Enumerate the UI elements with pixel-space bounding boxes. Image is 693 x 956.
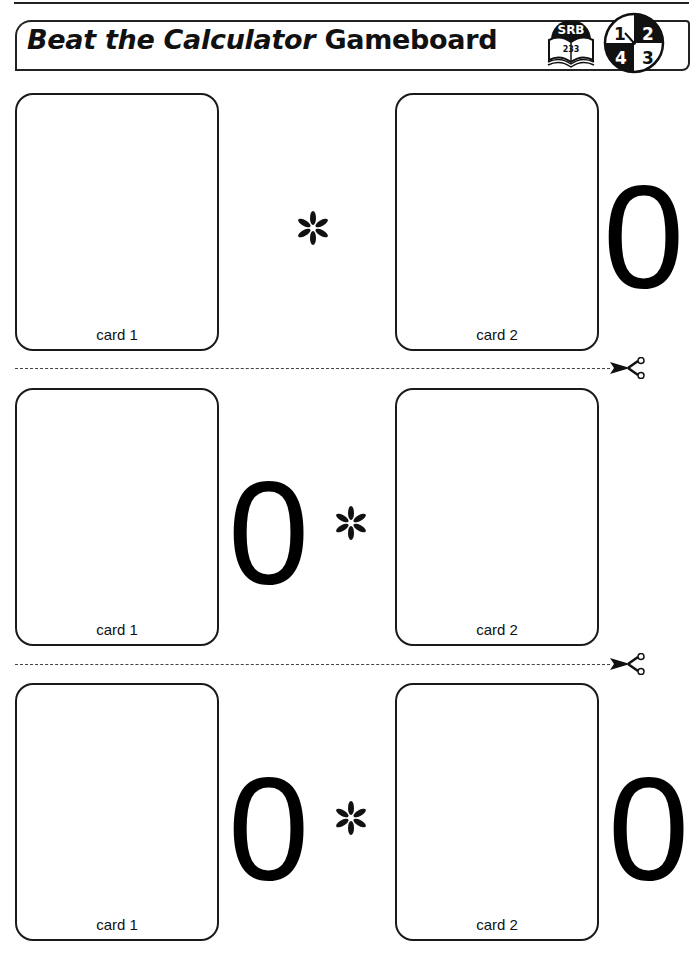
card-label: card 2 — [397, 916, 597, 933]
card-label: card 2 — [397, 326, 597, 343]
page-title: Beat the Calculator Gameboard — [27, 24, 497, 55]
card-label: card 1 — [17, 621, 217, 638]
page-title-italic: Beat the Calculator — [27, 24, 315, 55]
row3-card1-slot[interactable]: card 1 — [15, 683, 219, 941]
row1-card1-slot[interactable]: card 1 — [15, 93, 219, 351]
page-title-rest: Gameboard — [315, 24, 497, 55]
cut-line — [15, 368, 610, 369]
row3-card2-slot[interactable]: card 2 — [395, 683, 599, 941]
multiply-asterisk-icon — [333, 800, 369, 836]
top-rule — [14, 2, 689, 4]
multiply-asterisk-icon — [333, 505, 369, 541]
clock-icon: 1 2 3 4 — [603, 12, 665, 74]
card-label: card 1 — [17, 326, 217, 343]
row3-zero-after-card1: 0 — [228, 757, 309, 903]
svg-text:4: 4 — [615, 48, 627, 68]
card-label: card 1 — [17, 916, 217, 933]
row1-zero-after-card2: 0 — [603, 165, 684, 311]
row2-card2-slot[interactable]: card 2 — [395, 388, 599, 646]
svg-text:1: 1 — [614, 24, 626, 44]
cut-line — [15, 664, 610, 665]
scissors-icon — [610, 357, 646, 379]
scissors-icon — [610, 653, 646, 675]
svg-text:2: 2 — [642, 24, 654, 44]
multiply-asterisk-icon — [295, 210, 331, 246]
svg-text:233: 233 — [563, 45, 580, 54]
book-icon: SRB 233 — [545, 14, 597, 68]
row1-card2-slot[interactable]: card 2 — [395, 93, 599, 351]
svg-text:SRB: SRB — [557, 23, 584, 37]
row2-card1-slot[interactable]: card 1 — [15, 388, 219, 646]
row2-zero-after-card1: 0 — [228, 461, 309, 607]
card-label: card 2 — [397, 621, 597, 638]
row3-zero-after-card2: 0 — [608, 757, 689, 903]
svg-text:3: 3 — [642, 48, 654, 68]
